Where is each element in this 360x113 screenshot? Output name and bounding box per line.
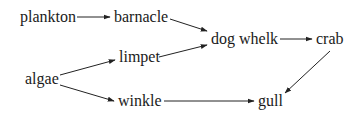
arrow-algae-to-winkle [60, 85, 114, 101]
node-winkle: winkle [118, 92, 162, 109]
arrow-algae-to-limpet [60, 60, 115, 75]
node-gull: gull [258, 92, 283, 110]
node-algae: algae [25, 70, 59, 88]
node-barnacle: barnacle [114, 8, 168, 25]
node-plankton: plankton [20, 8, 76, 26]
arrows-layer [60, 17, 330, 101]
arrow-limpet-to-dog-whelk [159, 45, 207, 57]
node-dog-whelk: dog whelk [211, 30, 278, 48]
node-crab: crab [316, 30, 344, 47]
arrow-barnacle-to-dog-whelk [170, 19, 207, 31]
food-web-diagram: plankton barnacle limpet dog whelk crab … [0, 0, 360, 113]
node-limpet: limpet [119, 48, 160, 66]
arrow-crab-to-gull [285, 51, 330, 93]
